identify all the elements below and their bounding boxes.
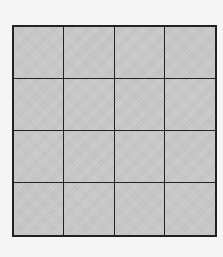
grid-cell-r4-c1 [14,183,64,235]
grid-cell-r3-c4 [165,131,215,183]
grid-cell-r1-c2 [64,27,114,79]
canvas [0,0,223,257]
grid-cell-r3-c1 [14,131,64,183]
grid-cell-r3-c3 [115,131,165,183]
grid-cell-r1-c4 [165,27,215,79]
grid-cell-r2-c3 [115,79,165,131]
grid-cell-r4-c3 [115,183,165,235]
grid-cell-r2-c1 [14,79,64,131]
grid-cell-r4-c2 [64,183,114,235]
grid-cell-r2-c2 [64,79,114,131]
grid-4x4 [12,25,217,237]
grid-cell-r2-c4 [165,79,215,131]
grid-cell-r1-c1 [14,27,64,79]
grid-cell-r4-c4 [165,183,215,235]
grid-cell-r1-c3 [115,27,165,79]
grid-cell-r3-c2 [64,131,114,183]
